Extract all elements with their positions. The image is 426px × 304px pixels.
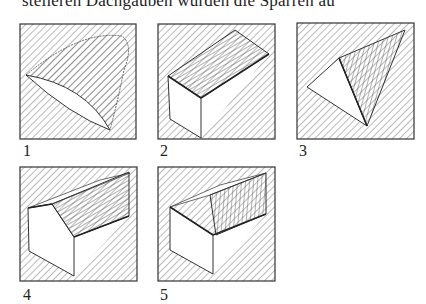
panel-label-3: 3	[299, 143, 307, 159]
panel-5	[158, 167, 275, 281]
panel-4	[20, 167, 137, 281]
panel-2	[158, 24, 275, 139]
panel-label-5: 5	[160, 287, 168, 303]
panel-3	[297, 23, 414, 139]
dormer-figures	[0, 0, 426, 304]
panel-1	[20, 24, 136, 139]
panel-label-1: 1	[23, 143, 31, 159]
panel-label-2: 2	[160, 143, 168, 159]
panel-label-4: 4	[23, 287, 31, 303]
